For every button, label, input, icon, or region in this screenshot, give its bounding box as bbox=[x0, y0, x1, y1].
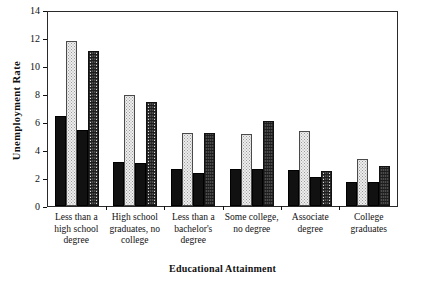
y-tick-label: 8 bbox=[18, 90, 40, 100]
x-tick-mark bbox=[281, 206, 282, 210]
y-tick-mark bbox=[43, 151, 47, 152]
x-category-label: Some college,no degree bbox=[223, 212, 282, 247]
bar-group bbox=[48, 12, 106, 206]
bar-group bbox=[164, 12, 222, 206]
y-tick-mark bbox=[43, 39, 47, 40]
bar bbox=[288, 170, 299, 206]
bar-groups bbox=[48, 12, 397, 206]
y-tick-label: 14 bbox=[18, 6, 40, 16]
x-tick-mark bbox=[339, 206, 340, 210]
y-tick-label: 12 bbox=[18, 34, 40, 44]
bar bbox=[88, 51, 99, 206]
y-tick-label: 10 bbox=[18, 62, 40, 72]
bar bbox=[146, 102, 157, 206]
y-tick-mark bbox=[43, 207, 47, 208]
x-tick-mark bbox=[106, 206, 107, 210]
x-axis-title: Educational Attainment bbox=[47, 263, 398, 274]
x-category-label: Less than ahigh schooldegree bbox=[47, 212, 106, 247]
y-axis-title: Unemployment Rate bbox=[11, 31, 22, 191]
bar bbox=[368, 182, 379, 206]
bar bbox=[193, 173, 204, 206]
bar-group bbox=[106, 12, 164, 206]
y-axis-tick-labels: 02468101214 bbox=[22, 0, 44, 294]
x-category-label: Collegegraduates bbox=[340, 212, 399, 247]
y-tick-label: 2 bbox=[18, 174, 40, 184]
x-category-label: Associatedegree bbox=[281, 212, 340, 247]
bar-group bbox=[281, 12, 339, 206]
y-tick-mark bbox=[43, 11, 47, 12]
bar bbox=[124, 95, 135, 206]
bar bbox=[55, 116, 66, 206]
bar bbox=[379, 166, 390, 206]
bar bbox=[357, 159, 368, 206]
x-tick-mark bbox=[164, 206, 165, 210]
y-tick-label: 4 bbox=[18, 146, 40, 156]
y-tick-mark bbox=[43, 123, 47, 124]
bar bbox=[77, 130, 88, 206]
bar bbox=[321, 171, 332, 206]
bar bbox=[299, 131, 310, 206]
bar bbox=[346, 182, 357, 206]
bar bbox=[135, 163, 146, 206]
bar bbox=[66, 41, 77, 206]
x-tick-mark bbox=[223, 206, 224, 210]
x-axis-category-labels: Less than ahigh schooldegreeHigh schoolg… bbox=[47, 212, 398, 247]
y-tick-mark bbox=[43, 179, 47, 180]
bar-group bbox=[339, 12, 397, 206]
bar bbox=[113, 162, 124, 206]
unemployment-rate-bar-chart: Unemployment Rate 02468101214 Less than … bbox=[0, 0, 429, 294]
y-tick-mark bbox=[43, 67, 47, 68]
bar bbox=[310, 177, 321, 206]
y-tick-label: 6 bbox=[18, 118, 40, 128]
bar bbox=[241, 134, 252, 206]
bar bbox=[230, 169, 241, 206]
x-category-label: High schoolgraduates, nocollege bbox=[106, 212, 165, 247]
y-tick-label: 0 bbox=[18, 202, 40, 212]
plot-area bbox=[47, 11, 398, 207]
bar bbox=[252, 169, 263, 206]
bar bbox=[204, 133, 215, 206]
bar-group bbox=[223, 12, 281, 206]
bar bbox=[182, 133, 193, 206]
y-tick-mark bbox=[43, 95, 47, 96]
bar bbox=[171, 169, 182, 206]
bar bbox=[263, 121, 274, 206]
x-category-label: Less than abachelor'sdegree bbox=[164, 212, 223, 247]
